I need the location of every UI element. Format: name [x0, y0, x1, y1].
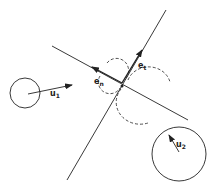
body-1-circle	[10, 78, 40, 108]
dashed-arcs	[98, 58, 170, 124]
u2-label: u2	[176, 140, 186, 150]
collision-diagram: u1 u2 en et	[0, 0, 216, 187]
normal-line	[52, 46, 188, 120]
body-2-circle	[152, 127, 206, 181]
et-label: et	[138, 61, 146, 71]
en-label: en	[94, 77, 104, 87]
contact-point	[121, 85, 124, 88]
tangent-line	[67, 10, 166, 180]
u1-label: u1	[50, 89, 60, 99]
